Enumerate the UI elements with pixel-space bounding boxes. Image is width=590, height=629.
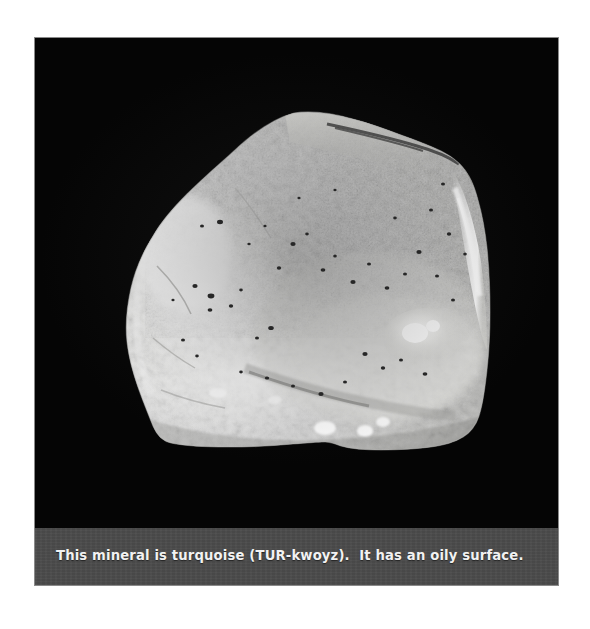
photo-black-field	[35, 38, 558, 528]
caption-band: This mineral is turquoise (TUR-kwoyz). I…	[35, 528, 558, 585]
photo-frame: This mineral is turquoise (TUR-kwoyz). I…	[35, 38, 558, 585]
figure-page: This mineral is turquoise (TUR-kwoyz). I…	[0, 0, 590, 629]
caption-text: This mineral is turquoise (TUR-kwoyz). I…	[35, 548, 524, 565]
mineral-specimen-image	[35, 38, 558, 528]
